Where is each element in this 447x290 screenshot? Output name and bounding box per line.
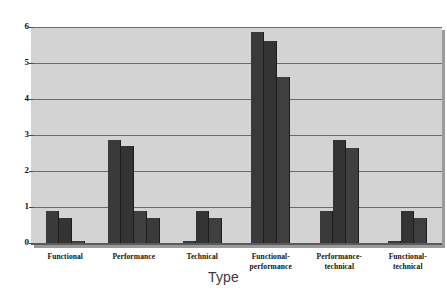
bar [209,218,222,243]
bar [108,140,121,243]
x-axis-title: Type [0,269,447,285]
plot-area [31,27,442,243]
bar [333,140,346,243]
axis-baseline-shadow [34,245,445,248]
y-axis-tick-mark [29,243,33,244]
bar-chart: 0123456 FunctionalPerformanceTechnicalFu… [0,0,447,290]
y-axis-tick-mark [29,135,33,136]
y-axis-tick-mark [29,171,33,172]
y-axis-tick-label: 1 [3,202,29,211]
bar-group [237,27,306,243]
bar [121,146,134,243]
y-axis-tick-mark [29,63,33,64]
bar-group [100,27,169,243]
bar-group [374,27,443,243]
bar [196,211,209,243]
bar [401,211,414,243]
y-axis-tick-mark [29,27,33,28]
y-axis-tick-label: 5 [3,58,29,67]
y-axis-tick-label: 2 [3,166,29,175]
bar [414,218,427,243]
y-axis-tick-mark [29,207,33,208]
bar [59,218,72,243]
bar-group [168,27,237,243]
bar [264,41,277,243]
y-axis-tick-label: 0 [3,238,29,247]
bar [251,32,264,243]
bar [46,211,59,243]
bar [134,211,147,243]
bar [277,77,290,243]
y-axis-tick-label: 6 [3,22,29,31]
bar [147,218,160,243]
bar [320,211,333,243]
bar-group [31,27,100,243]
bar-group [305,27,374,243]
y-axis-tick-label: 3 [3,130,29,139]
y-axis-tick-mark [29,99,33,100]
y-axis-tick-label: 4 [3,94,29,103]
bar [346,148,359,243]
x-axis-line [31,243,442,245]
y-axis: 0123456 [0,0,29,290]
